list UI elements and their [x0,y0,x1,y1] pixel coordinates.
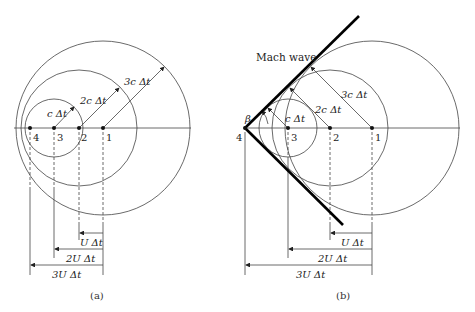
mach-wave-upper [245,16,359,128]
caption-b: (b) [336,290,350,301]
point-4-label: 4 [236,132,242,143]
radius-label-c: c Δt [285,113,306,124]
radius-label-3c: 3c Δt [341,89,368,100]
dim-label-u: U Δt [341,237,365,248]
wave-propagation-diagram: 1 2 3 4 c Δt 2c Δt 3c Δt U Δt 2U Δt 3U Δ… [0,0,475,312]
point-1-label: 1 [106,132,112,143]
radius-2c [79,88,119,128]
point-2-label: 2 [81,132,87,143]
radius-label-2c: 2c Δt [314,104,342,115]
dim-label-2u: 2U Δt [65,253,96,264]
dim-label-u: U Δt [80,237,104,248]
point-2-label: 2 [333,132,339,143]
point-1-label: 1 [375,132,381,143]
dim-label-3u: 3U Δt [296,269,326,280]
point-3-label: 3 [291,132,297,143]
radius-label-3c: 3c Δt [124,76,151,87]
radius-label-c: c Δt [47,108,68,119]
radius-label-2c: 2c Δt [79,95,107,106]
point-3-label: 3 [57,132,63,143]
point-4-label: 4 [33,132,39,143]
beta-label: β [244,113,251,124]
dim-label-3u: 3U Δt [52,269,82,280]
mach-wave-label: Mach wave [256,51,316,63]
caption-a: (a) [90,290,104,301]
dim-label-2u: 2U Δt [317,253,348,264]
